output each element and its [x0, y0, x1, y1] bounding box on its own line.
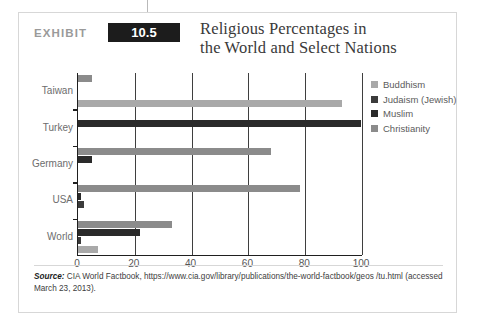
bar-world-buddhism [78, 246, 98, 253]
title-line-2: the World and Select Nations [200, 38, 450, 57]
bar-taiwan-christianity [78, 75, 92, 82]
y-axis-label-taiwan: Taiwan [42, 85, 73, 96]
chart-plot-area [77, 73, 362, 256]
exhibit-card: EXHIBIT 10.5 Religious Percentages in th… [18, 12, 457, 313]
y-axis-label-world: World [47, 231, 73, 242]
x-axis-tick-label: 0 [74, 258, 80, 269]
bar-germany-muslim [78, 156, 92, 163]
bar-world-christianity [78, 221, 172, 228]
exhibit-number-box: 10.5 [108, 23, 180, 42]
x-axis-tick-label: 60 [242, 258, 253, 269]
bar-usa-muslim [78, 193, 81, 200]
bar-world-judaism-jewish [78, 237, 81, 244]
x-axis-tick-label: 80 [299, 258, 310, 269]
chart-legend: BuddhismJudaism (Jewish)MuslimChristiani… [371, 75, 457, 133]
y-axis-tick [73, 219, 78, 221]
source-label: Source: [34, 272, 64, 281]
bar-germany-christianity [78, 148, 271, 155]
y-axis-label-turkey: Turkey [43, 122, 73, 133]
legend-swatch-icon [371, 81, 378, 88]
legend-swatch-icon [371, 125, 378, 132]
legend-item-christianity[interactable]: Christianity [371, 119, 457, 134]
bar-usa-christianity [78, 185, 300, 192]
legend-label: Christianity [383, 123, 430, 134]
y-axis-tick [73, 146, 78, 148]
gridline [362, 73, 363, 255]
y-axis-label-usa: USA [52, 194, 73, 205]
title-line-1: Religious Percentages in [200, 19, 450, 38]
exhibit-label: EXHIBIT [34, 27, 87, 39]
legend-swatch-icon [371, 96, 378, 103]
x-axis-tick-label: 20 [128, 258, 139, 269]
source-divider [34, 265, 443, 266]
source-text: CIA World Factbook, https://www.cia.gov/… [34, 272, 443, 293]
exhibit-figure: EXHIBIT 10.5 Religious Percentages in th… [0, 0, 493, 329]
y-axis-tick [73, 182, 78, 184]
x-axis-tick-label: 40 [185, 258, 196, 269]
legend-item-buddhism[interactable]: Buddhism [371, 75, 457, 90]
legend-item-judaism-jewish[interactable]: Judaism (Jewish) [371, 90, 457, 105]
bar-usa-judaism-jewish [78, 201, 84, 208]
x-axis-tick-label: 100 [353, 258, 370, 269]
legend-swatch-icon [371, 110, 378, 117]
exhibit-header: EXHIBIT 10.5 Religious Percentages in th… [19, 13, 456, 61]
page-title: Religious Percentages in the World and S… [200, 19, 450, 57]
legend-item-muslim[interactable]: Muslim [371, 104, 457, 119]
bar-world-muslim [78, 229, 140, 236]
y-axis-category-labels: TaiwanTurkeyGermanyUSAWorld [19, 73, 77, 255]
y-axis-tick [73, 109, 78, 111]
source-note: Source: CIA World Factbook, https://www.… [34, 271, 446, 294]
exhibit-number: 10.5 [108, 23, 180, 42]
bar-taiwan-buddhism [78, 100, 342, 107]
y-axis-label-germany: Germany [32, 158, 73, 169]
bar-turkey-muslim [78, 120, 361, 127]
